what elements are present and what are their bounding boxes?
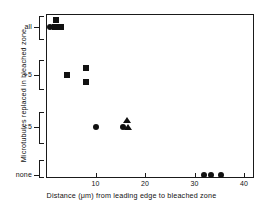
x-axis-tick-label: 10 bbox=[83, 180, 109, 187]
plot-area bbox=[46, 14, 254, 178]
y-category-bracket bbox=[39, 112, 44, 144]
y-category-stem bbox=[34, 127, 40, 128]
y-axis-title: Microtubules replaced in bleached zone bbox=[19, 11, 28, 181]
x-axis-tick-label: 30 bbox=[182, 180, 208, 187]
data-point-square bbox=[64, 72, 70, 78]
y-category-stem bbox=[34, 175, 40, 176]
data-point-square bbox=[83, 65, 89, 71]
y-category-stem bbox=[34, 27, 40, 28]
x-axis-tick-label: 40 bbox=[231, 180, 257, 187]
x-axis-tick bbox=[96, 173, 97, 178]
data-point-square bbox=[58, 24, 64, 30]
x-axis-tick bbox=[145, 173, 146, 178]
data-point-triangle bbox=[123, 117, 131, 123]
data-point-triangle bbox=[124, 124, 132, 130]
y-category-bracket bbox=[39, 16, 44, 40]
x-axis-tick-label: 20 bbox=[132, 180, 158, 187]
data-point-square bbox=[83, 79, 89, 85]
data-point-circle bbox=[93, 124, 99, 130]
chart-figure: 10203040 all>5<5none Distance (μm) from … bbox=[0, 0, 263, 209]
data-point-circle bbox=[47, 24, 53, 30]
y-category-stem bbox=[34, 75, 40, 76]
x-axis-tick bbox=[195, 173, 196, 178]
x-axis-tick bbox=[244, 173, 245, 178]
x-axis-title: Distance (μm) from leading edge to bleac… bbox=[0, 191, 263, 200]
data-point-square bbox=[53, 17, 59, 23]
